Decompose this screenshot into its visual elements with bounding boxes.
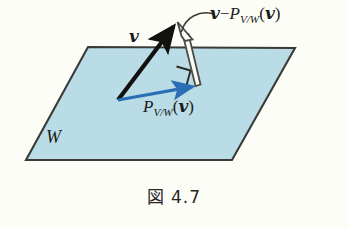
label-projection: PV/W(v) xyxy=(143,98,194,118)
label-v-text: v xyxy=(129,26,139,46)
figure-container: v v−PV/W(v) PV/W(v) W 図4.7 xyxy=(0,0,348,228)
proj-p-symbol: P xyxy=(143,97,153,116)
diff-close-paren: ) xyxy=(275,4,281,23)
label-vector-v: v xyxy=(129,28,139,45)
label-plane-w: W xyxy=(46,128,61,146)
figure-caption: 図4.7 xyxy=(0,183,348,208)
proj-close-paren: ) xyxy=(188,97,194,116)
diff-subscript: V/W xyxy=(240,13,259,25)
proj-arg-v: v xyxy=(178,96,188,116)
diff-arg-v: v xyxy=(265,3,275,23)
diff-v-left: v xyxy=(210,3,220,23)
caption-symbol: 図 xyxy=(147,187,165,207)
label-vector-difference: v−PV/W(v) xyxy=(210,5,280,25)
proj-subscript: V/W xyxy=(153,106,172,118)
leader-curve xyxy=(182,13,213,32)
caption-number: 4.7 xyxy=(171,187,201,207)
diff-p-symbol: P xyxy=(229,4,239,23)
